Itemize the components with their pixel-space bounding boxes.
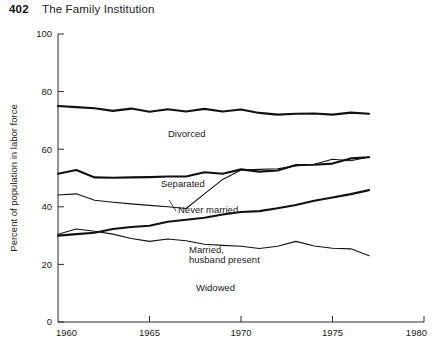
- y-tick-label: 40: [41, 201, 52, 212]
- series-line-separated: [58, 157, 369, 177]
- series-label-separated: Separated: [161, 178, 205, 189]
- y-axis-title: Percent of population in labor force: [8, 104, 19, 251]
- y-tick-label: 60: [41, 144, 52, 155]
- series-label-divorced: Divorced: [168, 128, 206, 139]
- page-number: 402: [9, 3, 29, 15]
- x-tick-label: 1960: [56, 327, 77, 338]
- chart-series-lines: [58, 106, 369, 256]
- series-label-widowed: Widowed: [196, 282, 235, 293]
- line-chart: 020406080100 19601965197019751980 Divorc…: [0, 22, 443, 354]
- x-tick-label: 1965: [139, 327, 160, 338]
- x-tick-label: 1980: [406, 327, 427, 338]
- y-tick-label: 20: [41, 259, 52, 270]
- x-axis-ticks: 19601965197019751980: [56, 316, 427, 338]
- series-label-never-married: Never married: [178, 204, 238, 215]
- figure-chart-container: 020406080100 19601965197019751980 Divorc…: [0, 22, 443, 354]
- chart-series-labels: DivorcedSeparatedNever marriedMarried,hu…: [161, 128, 260, 293]
- leader-line-never-married: [169, 200, 176, 211]
- x-tick-label: 1975: [322, 327, 343, 338]
- x-tick-label: 1970: [230, 327, 251, 338]
- y-tick-label: 0: [47, 316, 52, 327]
- y-tick-label: 80: [41, 86, 52, 97]
- y-tick-label: 100: [36, 28, 52, 39]
- y-axis-ticks: 020406080100: [36, 28, 64, 327]
- series-line-divorced: [58, 106, 369, 115]
- series-label-married-husband-present-line2: husband present: [189, 254, 260, 265]
- running-head-title: The Family Institution: [42, 3, 155, 15]
